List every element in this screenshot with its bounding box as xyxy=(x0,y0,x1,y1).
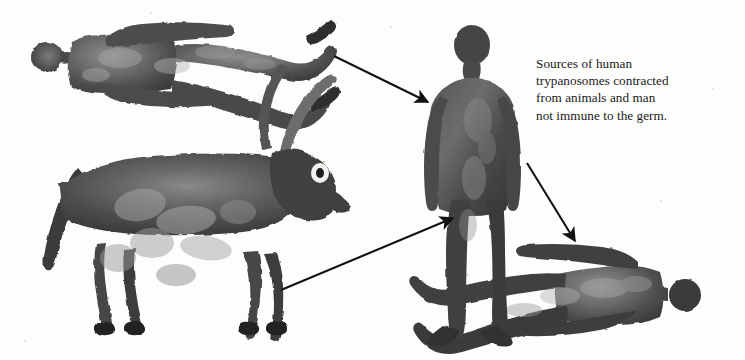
caption-line-1: Sources of human xyxy=(536,55,706,72)
scan-speck xyxy=(150,12,152,14)
figure-reclining-human-top-left xyxy=(31,21,340,130)
scan-speck xyxy=(390,26,392,28)
arrow-human-to-center xyxy=(334,56,428,102)
arrow-center-to-human xyxy=(527,163,575,241)
illustration-canvas xyxy=(0,0,745,360)
illustration-stage: Sources of human trypanosomes contracted… xyxy=(0,0,745,360)
scan-speck xyxy=(24,340,26,342)
arrow-cow-to-center xyxy=(281,218,453,290)
caption-line-4: not immune to the germ. xyxy=(536,107,706,124)
scan-speck xyxy=(660,200,662,202)
scan-speck xyxy=(712,88,714,90)
caption-block: Sources of human trypanosomes contracted… xyxy=(536,55,706,124)
cow-eye xyxy=(311,163,329,183)
caption-line-2: trypanosomes contracted xyxy=(536,72,706,89)
caption-line-3: from animals and man xyxy=(536,89,706,106)
